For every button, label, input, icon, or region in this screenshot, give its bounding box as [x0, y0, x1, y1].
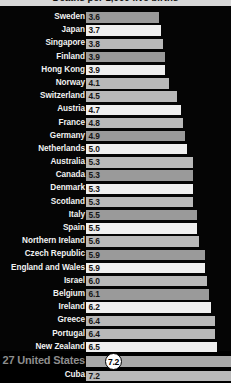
bar-track: 3.6: [86, 12, 231, 22]
bar-value-label: 4.5: [89, 91, 100, 101]
bar-track: 6.5: [86, 342, 231, 352]
bar-track: 5.3: [86, 197, 231, 207]
bar-track: 3.8: [86, 39, 231, 49]
bar-track: 5.3: [86, 184, 231, 194]
value-bar: 5.3: [86, 170, 193, 180]
value-bar: 6.5: [86, 342, 217, 352]
bar-value-label: 3.6: [89, 12, 100, 22]
bar-value-label: 5.9: [89, 263, 100, 273]
bar-value-label: 5.3: [89, 170, 100, 180]
bar-rows-container: Sweden3.6Japan3.7Singapore3.8Finland3.9H…: [0, 11, 231, 383]
bar-track: 5.6: [86, 236, 231, 246]
bar-row: Cuba7.2: [0, 369, 231, 382]
bar-row: Sweden3.6: [0, 11, 231, 24]
bar-value-label: 5.9: [89, 250, 100, 260]
bar-value-label: 4.1: [89, 78, 100, 88]
bar-track: 5.5: [86, 210, 231, 220]
value-bar: 7.2: [86, 371, 231, 381]
value-bar: 4.7: [86, 105, 181, 115]
bar-row: Australia5.3: [0, 156, 231, 169]
bar-row: Northern Ireland5.6: [0, 235, 231, 248]
bar-row: England and Wales5.9: [0, 262, 231, 275]
bar-track: 4.5: [86, 91, 231, 101]
bar-row: Norway4.1: [0, 77, 231, 90]
value-bar: 6.1: [86, 289, 209, 299]
bar-row-united-states: 27 United States7.2: [0, 354, 231, 370]
bar-row: France4.8: [0, 117, 231, 130]
value-bar: 4.9: [86, 131, 185, 141]
bar-value-label: 3.8: [89, 39, 100, 49]
value-bar: 3.7: [86, 25, 161, 35]
bar-row: Switzerland4.5: [0, 90, 231, 103]
bar-value-label: 5.5: [89, 210, 100, 220]
bar-value-label: 6.1: [89, 289, 100, 299]
highlight-value-circle: 7.2: [105, 353, 122, 370]
bar-track: 5.3: [86, 157, 231, 167]
value-bar: 4.8: [86, 118, 183, 128]
bar-row: Austria4.7: [0, 103, 231, 116]
bar-track: 4.9: [86, 131, 231, 141]
bar-value-label: 6.4: [89, 329, 100, 339]
value-bar: 4.5: [86, 91, 177, 101]
value-bar: 5.9: [86, 263, 205, 273]
bar-row: Hong Kong3.9: [0, 64, 231, 77]
value-bar: 5.0: [86, 144, 187, 154]
bar-value-label: 5.5: [89, 223, 100, 233]
bar-track: 6.0: [86, 276, 231, 286]
bar-value-label: 5.3: [89, 184, 100, 194]
bar-value-label: 6.2: [89, 302, 100, 312]
bar-track: 6.1: [86, 289, 231, 299]
chart-title: Deaths per 1,000 live births: [0, 0, 231, 3]
bar-track: 3.9: [86, 52, 231, 62]
value-bar: 6.2: [86, 302, 211, 312]
bar-row: New Zealand6.5: [0, 341, 231, 354]
bar-value-label: 5.0: [89, 144, 100, 154]
value-bar: 5.5: [86, 223, 197, 233]
bar-value-label: 4.8: [89, 118, 100, 128]
value-bar: 6.0: [86, 276, 207, 286]
bar-row: Singapore3.8: [0, 37, 231, 50]
bar-track: 5.5: [86, 223, 231, 233]
bar-value-label: 6.4: [89, 316, 100, 326]
bar-row: Scotland5.3: [0, 196, 231, 209]
bar-row: Belgium6.1: [0, 288, 231, 301]
bar-track: 5.3: [86, 170, 231, 180]
value-bar: 4.1: [86, 78, 169, 88]
bar-track: 6.4: [86, 316, 231, 326]
bar-track: 4.8: [86, 118, 231, 128]
bar-value-label: 5.3: [89, 197, 100, 207]
bar-row: Israel6.0: [0, 275, 231, 288]
bar-row: Denmark5.3: [0, 182, 231, 195]
value-bar: 3.9: [86, 65, 165, 75]
bar-track: 4.7: [86, 105, 231, 115]
bar-track: 5.9: [86, 263, 231, 273]
value-bar: 3.6: [86, 12, 159, 22]
bar-track: 3.9: [86, 65, 231, 75]
value-bar: 5.6: [86, 236, 199, 246]
bar-value-label: 4.9: [89, 131, 100, 141]
bar-row: Ireland6.2: [0, 301, 231, 314]
value-bar: 5.3: [86, 184, 193, 194]
bar-row: Czech Republic5.9: [0, 248, 231, 261]
bar-value-label: 6.5: [89, 342, 100, 352]
bar-row: Greece6.4: [0, 314, 231, 327]
bar-row: Finland3.9: [0, 51, 231, 64]
value-bar: 3.9: [86, 52, 165, 62]
bar-track: 4.1: [86, 78, 231, 88]
bar-row: Japan3.7: [0, 24, 231, 37]
value-bar: 6.4: [86, 329, 215, 339]
bar-value-label: 5.6: [89, 236, 100, 246]
bar-value-label: 6.0: [89, 276, 100, 286]
bar-value-label: 3.9: [89, 65, 100, 75]
bar-value-label: 4.7: [89, 105, 100, 115]
bar-track: 5.0: [86, 144, 231, 154]
bar-row: Spain5.5: [0, 222, 231, 235]
bar-value-label: 3.9: [89, 52, 100, 62]
bar-track: 6.4: [86, 329, 231, 339]
bar-track: 7.2: [86, 356, 231, 366]
value-bar: 5.9: [86, 250, 205, 260]
bar-track: 7.2: [86, 371, 231, 381]
bar-value-label: 5.3: [89, 157, 100, 167]
bar-row: Germany4.9: [0, 130, 231, 143]
